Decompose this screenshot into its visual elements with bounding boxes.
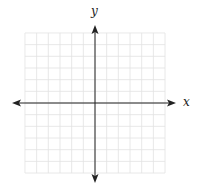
coordinate-plane: y x [0,0,200,193]
y-axis-label: y [91,5,98,17]
x-axis-label: x [183,96,190,108]
coordinate-grid-svg [0,0,200,193]
